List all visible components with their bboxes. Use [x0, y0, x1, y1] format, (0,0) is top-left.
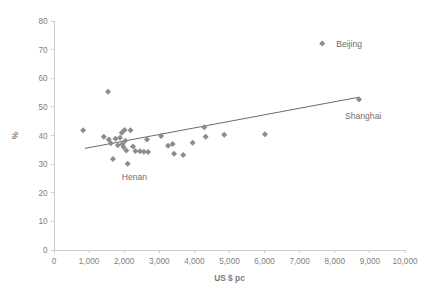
- y-tick-label: 20: [38, 189, 48, 198]
- y-tick-label: 60: [38, 74, 48, 83]
- data-points: [80, 41, 362, 167]
- y-tick-label: 70: [38, 46, 48, 55]
- data-point-marker: [117, 135, 123, 141]
- x-tick-label: 6,000: [254, 257, 275, 266]
- x-axis: 01,0002,0003,0004,0005,0006,0007,0008,00…: [52, 250, 418, 266]
- point-annotations: BeijingShanghaiHenan: [122, 39, 382, 182]
- y-tick-label: 10: [38, 217, 48, 226]
- data-point-marker: [319, 41, 325, 47]
- x-tick-label: 0: [52, 257, 57, 266]
- x-tick-label: 8,000: [325, 257, 346, 266]
- data-point-marker: [201, 124, 207, 130]
- plot-area: 01020304050607080 01,0002,0003,0004,0005…: [0, 0, 432, 298]
- y-axis: 01020304050607080: [38, 17, 54, 255]
- data-point-marker: [171, 151, 177, 157]
- y-axis-title: %: [10, 131, 20, 139]
- data-point-marker: [110, 156, 116, 162]
- y-tick-label: 0: [43, 246, 48, 255]
- data-point-marker: [105, 89, 111, 95]
- data-point-marker: [101, 134, 107, 140]
- data-point-marker: [128, 127, 134, 133]
- data-point-marker: [125, 161, 131, 167]
- data-point-marker: [221, 132, 227, 138]
- x-tick-label: 1,000: [79, 257, 100, 266]
- data-point-marker: [115, 142, 121, 148]
- annotation-beijing: Beijing: [336, 39, 362, 49]
- data-point-marker: [203, 134, 209, 140]
- x-tick-label: 5,000: [219, 257, 240, 266]
- x-tick-label: 3,000: [149, 257, 170, 266]
- x-tick-label: 10,000: [392, 257, 417, 266]
- y-tick-label: 50: [38, 103, 48, 112]
- x-tick-label: 7,000: [289, 257, 310, 266]
- y-tick-label: 30: [38, 160, 48, 169]
- x-axis-title: US $ pc: [214, 273, 245, 283]
- y-tick-label: 80: [38, 17, 48, 26]
- data-point-marker: [180, 152, 186, 158]
- x-tick-label: 2,000: [114, 257, 135, 266]
- data-point-marker: [190, 140, 196, 146]
- annotation-henan: Henan: [122, 172, 148, 182]
- data-point-marker: [112, 136, 118, 142]
- annotation-shanghai: Shanghai: [345, 111, 381, 121]
- scatter-chart: 01020304050607080 01,0002,0003,0004,0005…: [0, 0, 432, 298]
- data-point-marker: [145, 149, 151, 155]
- x-tick-label: 4,000: [184, 257, 205, 266]
- x-tick-label: 9,000: [360, 257, 381, 266]
- data-point-marker: [80, 127, 86, 133]
- data-point-marker: [262, 131, 268, 137]
- y-tick-label: 40: [38, 132, 48, 141]
